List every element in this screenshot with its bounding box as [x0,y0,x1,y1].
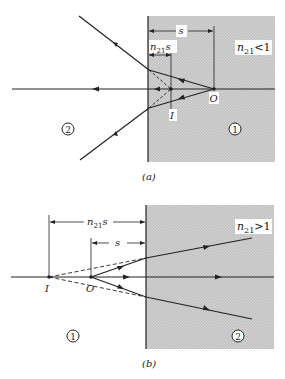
medium-label-a-left: 2 [62,123,74,135]
label-n21s-b: n21s [87,216,108,230]
arrow-icon [117,284,124,289]
svg-text:1: 1 [232,125,238,135]
label-s-b: s [115,237,120,248]
arrow-icon [123,275,130,280]
medium-label-a-right: 1 [229,123,241,135]
caption-b: (b) [142,358,156,369]
arrow-icon [140,220,145,224]
label-O-b: O [86,283,94,294]
arrow-icon [140,241,145,245]
svg-text:1: 1 [70,332,76,342]
svg-text:2: 2 [235,332,241,342]
arrow-icon [92,241,97,245]
arrow-icon [50,220,55,224]
condition-label-a: n21<1 [237,41,271,56]
caption-a: (a) [142,171,156,182]
label-O-a: O [210,93,218,104]
medium-label-b-left: 1 [67,330,79,342]
panel-b: n21s s n21>1 I O 1 2 (b) [11,205,274,369]
arrow-icon [117,266,124,271]
refraction-diagram: s n21s n21<1 O I 2 1 (a) [0,0,285,379]
label-I-b: I [44,283,50,294]
label-s-a: s [179,25,184,36]
panel-a: s n21s n21<1 O I 2 1 (a) [12,16,275,182]
svg-text:2: 2 [65,125,71,135]
medium-label-b-right: 2 [232,330,244,342]
condition-label-b: n21>1 [237,220,271,235]
arrow-icon [92,87,99,92]
